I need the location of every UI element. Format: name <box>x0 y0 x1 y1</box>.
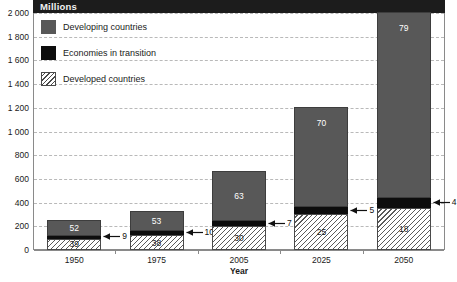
y-axis-tick-label: 1 400 <box>8 79 29 89</box>
y-axis: 02004006008001 0001 2001 4001 6001 8002 … <box>0 13 33 250</box>
y-axis-tick-label: 0 <box>24 245 29 255</box>
x-axis-tick-label: 1975 <box>147 255 166 265</box>
x-axis-tick-mark <box>280 250 281 254</box>
x-axis-tick-mark <box>363 250 364 254</box>
gridline <box>34 203 444 204</box>
x-axis-title: Year <box>33 266 445 276</box>
gridline <box>34 226 444 227</box>
legend-item-developed: Developed countries <box>41 70 191 90</box>
gridline <box>34 132 444 133</box>
y-axis-tick-label: 600 <box>15 174 29 184</box>
x-axis-tick-label: 2050 <box>394 255 413 265</box>
x-axis-tick-mark <box>198 250 199 254</box>
y-axis-tick-label: 1 000 <box>8 127 29 137</box>
y-axis-tick-label: 1 800 <box>8 32 29 42</box>
legend-label-transition: Economies in transition <box>63 44 156 63</box>
x-axis-tick-label: 1950 <box>65 255 84 265</box>
legend: Developing countries Economies in transi… <box>41 18 191 96</box>
legend-item-transition: Economies in transition <box>41 44 191 64</box>
y-axis-tick-label: 200 <box>15 221 29 231</box>
bar-value-transition: 4 <box>452 197 457 208</box>
gridline <box>34 13 444 14</box>
chart-title: Millions <box>40 0 77 13</box>
chart-title-band: Millions <box>33 0 445 13</box>
legend-swatch-developed-icon <box>41 72 56 86</box>
y-axis-tick-label: 2 000 <box>8 8 29 18</box>
x-axis-tick-mark <box>115 250 116 254</box>
legend-label-developing: Developing countries <box>63 18 147 37</box>
legend-swatch-developing-icon <box>41 20 56 34</box>
gridline <box>34 108 444 109</box>
gridline <box>34 155 444 156</box>
legend-label-developed: Developed countries <box>63 70 145 89</box>
y-axis-tick-label: 1 600 <box>8 55 29 65</box>
x-axis-tick-label: 2005 <box>230 255 249 265</box>
x-axis-tick-label: 2025 <box>312 255 331 265</box>
y-axis-tick-label: 800 <box>15 150 29 160</box>
y-axis-tick-label: 1 200 <box>8 103 29 113</box>
gridline <box>34 179 444 180</box>
legend-swatch-transition-icon <box>41 46 56 60</box>
legend-item-developing: Developing countries <box>41 18 191 38</box>
y-axis-tick-label: 400 <box>15 198 29 208</box>
